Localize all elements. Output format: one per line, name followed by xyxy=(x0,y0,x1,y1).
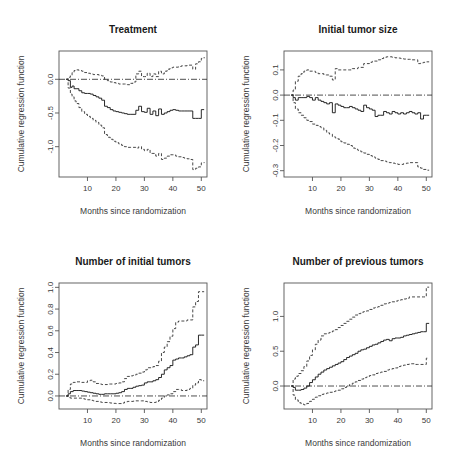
x-axis-label: Months since randomization xyxy=(80,438,186,448)
y-tick-label: -0.1 xyxy=(271,113,280,127)
y-tick-label: 1.0 xyxy=(46,281,55,293)
x-tick-label: 10 xyxy=(83,416,92,425)
y-tick-label: 0.0 xyxy=(46,73,55,85)
y-tick-label: -0.5 xyxy=(46,106,55,120)
x-tick-label: 10 xyxy=(308,184,317,193)
series-lower-confidence-band xyxy=(291,358,429,405)
panel-title: Treatment xyxy=(109,24,157,35)
series-upper-confidence-band xyxy=(66,292,204,396)
x-tick-label: 10 xyxy=(83,184,92,193)
x-tick-label: 40 xyxy=(393,416,402,425)
y-tick-label: 0.1 xyxy=(271,64,280,76)
y-tick-label: 0.8 xyxy=(46,303,55,315)
panel-1: Treatment10203040500.0-0.5-1.0Months sin… xyxy=(0,0,225,231)
plot-frame xyxy=(284,283,432,409)
figure-panel-grid: Treatment10203040500.0-0.5-1.0Months sin… xyxy=(0,0,450,463)
series-upper-confidence-band xyxy=(291,287,429,386)
x-tick-label: 50 xyxy=(422,416,431,425)
x-tick-label: 40 xyxy=(393,184,402,193)
y-tick-label: 0.4 xyxy=(46,346,55,358)
y-tick-label: 0.0 xyxy=(271,89,280,101)
panel-2: Initial tumor size10203040500.10.0-0.1-0… xyxy=(225,0,450,231)
x-tick-label: 30 xyxy=(140,416,149,425)
x-tick-label: 40 xyxy=(168,416,177,425)
series-upper-confidence-band xyxy=(291,57,429,95)
panel-title: Initial tumor size xyxy=(319,24,398,35)
series-lower-confidence-band xyxy=(66,79,204,169)
series-estimate xyxy=(291,95,429,119)
panel-title: Number of initial tumors xyxy=(75,256,191,267)
x-axis-label: Months since randomization xyxy=(80,206,186,216)
y-axis-label: Cumulative regression function xyxy=(16,287,26,404)
x-tick-label: 30 xyxy=(140,184,149,193)
y-tick-label: 1.0 xyxy=(271,310,280,322)
x-tick-label: 50 xyxy=(197,184,206,193)
y-tick-label: 0.0 xyxy=(271,380,280,392)
series-lower-confidence-band xyxy=(291,95,429,170)
x-tick-label: 50 xyxy=(197,416,206,425)
panel-4: Number of previous tumors10203040501.00.… xyxy=(225,232,450,463)
x-axis-label: Months since randomization xyxy=(305,438,411,448)
y-axis-label: Cumulative regression function xyxy=(16,55,26,172)
series-upper-confidence-band xyxy=(66,57,204,85)
x-tick-label: 30 xyxy=(365,184,374,193)
y-tick-label: -0.3 xyxy=(271,163,280,177)
plot-frame xyxy=(284,51,432,177)
y-tick-label: 0.0 xyxy=(46,390,55,402)
series-estimate xyxy=(66,335,204,396)
y-tick-label: -0.2 xyxy=(271,138,280,152)
series-estimate xyxy=(66,79,204,118)
x-tick-label: 40 xyxy=(168,184,177,193)
y-tick-label: -1.0 xyxy=(46,139,55,153)
x-tick-label: 30 xyxy=(365,416,374,425)
y-tick-label: 0.2 xyxy=(46,368,55,380)
x-tick-label: 20 xyxy=(336,184,345,193)
x-axis-label: Months since randomization xyxy=(305,206,411,216)
x-tick-label: 10 xyxy=(308,416,317,425)
panel-title: Number of previous tumors xyxy=(292,256,424,267)
y-tick-label: 0.5 xyxy=(271,345,280,357)
x-tick-label: 50 xyxy=(422,184,431,193)
y-axis-label: Cumulative regression function xyxy=(241,287,251,404)
y-axis-label: Cumulative regression function xyxy=(241,55,251,172)
x-tick-label: 20 xyxy=(111,184,120,193)
x-tick-label: 20 xyxy=(111,416,120,425)
x-tick-label: 20 xyxy=(336,416,345,425)
y-tick-label: 0.6 xyxy=(46,325,55,337)
panel-3: Number of initial tumors10203040501.00.8… xyxy=(0,232,225,463)
